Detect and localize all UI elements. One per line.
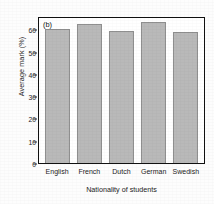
x-tick-label-english: English <box>41 168 73 175</box>
plot-area: (b) <box>38 17 205 164</box>
x-tick-label-german: German <box>138 168 170 175</box>
y-tick-mark <box>33 30 37 31</box>
y-tick-mark <box>33 141 37 142</box>
x-axis-tick-labels: EnglishFrenchDutchGermanSwedish <box>38 168 205 175</box>
x-tick-label-french: French <box>73 168 105 175</box>
y-tick-mark <box>33 74 37 75</box>
bar-dutch <box>109 31 134 163</box>
bar-english <box>45 29 70 163</box>
bar-french <box>77 24 102 163</box>
bar-chart-figure: Average mark (%) 0102030405060 (b) Engli… <box>0 0 214 204</box>
bar-series <box>39 18 204 163</box>
x-tick-label-dutch: Dutch <box>105 168 137 175</box>
x-axis-title: Nationality of students <box>38 185 205 194</box>
bar-german <box>141 22 166 163</box>
y-tick-mark <box>33 164 37 165</box>
panel-label: (b) <box>43 20 52 29</box>
y-tick-mark <box>33 97 37 98</box>
y-tick-mark <box>33 119 37 120</box>
x-tick-label-swedish: Swedish <box>170 168 202 175</box>
y-tick-mark <box>33 52 37 53</box>
y-axis-tick-labels: 0102030405060 <box>0 0 36 204</box>
bar-swedish <box>173 32 198 163</box>
